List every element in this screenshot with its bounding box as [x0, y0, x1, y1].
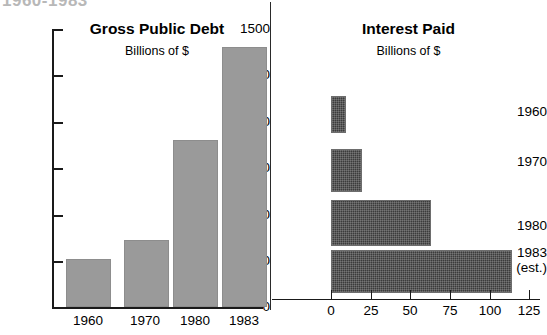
left-x-label-1983: 1983	[218, 313, 270, 328]
right-bar-1980	[331, 200, 431, 246]
right-x-tick-100	[490, 290, 491, 299]
right-row-label-1980: 1980	[489, 218, 547, 233]
left-bar-1980	[173, 140, 218, 307]
gross-public-debt-chart: Gross Public Debt Billions of $ 1500 125…	[0, 0, 270, 335]
right-bar-1970	[331, 149, 362, 192]
right-x-label-100: 100	[479, 303, 502, 318]
right-chart-subtitle: Billions of $	[270, 44, 547, 58]
right-x-label-50: 50	[402, 303, 417, 318]
left-x-label-1960: 1960	[62, 313, 114, 328]
left-x-label-1980: 1980	[169, 313, 221, 328]
left-bar-1983	[222, 47, 267, 307]
left-x-label-1970: 1970	[119, 313, 171, 328]
right-x-axis-line	[272, 299, 540, 300]
left-y-tick-750	[54, 168, 63, 170]
right-x-tick-125	[529, 290, 530, 299]
right-x-tick-25	[371, 290, 372, 299]
right-x-label-25: 25	[363, 303, 378, 318]
left-y-label-1500: 1500	[225, 22, 270, 36]
right-chart-title: Interest Paid	[270, 20, 547, 38]
right-x-label-125: 125	[518, 303, 541, 318]
right-bar-1983	[331, 250, 512, 293]
right-x-tick-75	[450, 290, 451, 299]
debt-and-interest-figure: 1960-1983 Gross Public Debt Billions of …	[0, 0, 547, 335]
left-y-tick-1500	[54, 29, 63, 31]
right-x-tick-0	[331, 290, 332, 299]
left-y-tick-250	[54, 261, 63, 263]
interest-paid-chart: Interest Paid Billions of $ 1960 1970 19…	[270, 0, 547, 335]
left-bar-1970	[124, 240, 169, 307]
right-x-tick-50	[410, 290, 411, 299]
left-bar-1960	[66, 259, 111, 307]
right-bar-1960	[331, 96, 346, 133]
left-y-tick-1250	[54, 75, 63, 77]
right-row-label-1960: 1960	[489, 104, 547, 119]
right-row-label-1970: 1970	[489, 154, 547, 169]
left-y-tick-500	[54, 215, 63, 217]
right-x-label-75: 75	[442, 303, 457, 318]
left-y-tick-1000	[54, 122, 63, 124]
right-x-label-0: 0	[327, 303, 335, 318]
left-y-tick-0	[54, 307, 63, 309]
